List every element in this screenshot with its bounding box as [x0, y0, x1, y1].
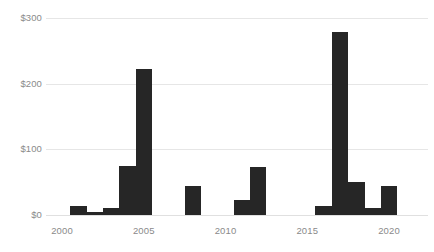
gridline-usd-200 [46, 84, 428, 85]
bar-2020 [381, 186, 398, 215]
x-axis-tick-label: 2000 [51, 226, 73, 236]
bar-2019 [364, 208, 381, 215]
x-axis-tick-label: 2015 [296, 226, 318, 236]
bar-2004 [119, 166, 136, 215]
y-axis-tick-label: $200 [0, 79, 42, 89]
y-axis-tick-label: $100 [0, 144, 42, 154]
bar-2011 [234, 200, 251, 215]
bar-2008 [185, 186, 202, 215]
gridline-usd-0 [46, 215, 428, 216]
bar-2012 [250, 167, 267, 215]
bar-2016 [315, 206, 332, 215]
bar-2018 [348, 182, 365, 215]
bar-2003 [103, 208, 120, 215]
plot-area: $0$100$200$300 20002005201020152020 [0, 0, 434, 252]
x-axis-tick-label: 2010 [215, 226, 237, 236]
bar-2005 [136, 69, 153, 215]
bar-chart: $0$100$200$300 20002005201020152020 [0, 0, 434, 252]
bar-2002 [86, 212, 103, 215]
gridline-usd-300 [46, 18, 428, 19]
x-axis-tick-label: 2020 [378, 226, 400, 236]
gridline-usd-100 [46, 149, 428, 150]
y-axis-tick-label: $300 [0, 13, 42, 23]
bar-2001 [70, 206, 87, 215]
bar-2017 [332, 32, 349, 215]
x-axis-tick-label: 2005 [133, 226, 155, 236]
y-axis-tick-label: $0 [0, 210, 42, 220]
